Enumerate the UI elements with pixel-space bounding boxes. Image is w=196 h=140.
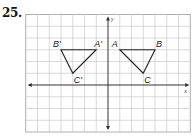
- vertex-label: B': [53, 39, 61, 49]
- vertex-label: A: [111, 39, 118, 49]
- x-axis-label: x: [183, 88, 187, 94]
- vertex-label: C': [74, 75, 82, 85]
- y-axis-label: y: [110, 16, 114, 22]
- vertex-label: C: [144, 75, 151, 85]
- coordinate-graph: xyABCA'B'C': [0, 0, 196, 140]
- vertex-label: B: [156, 39, 162, 49]
- vertex-label: A': [93, 39, 102, 49]
